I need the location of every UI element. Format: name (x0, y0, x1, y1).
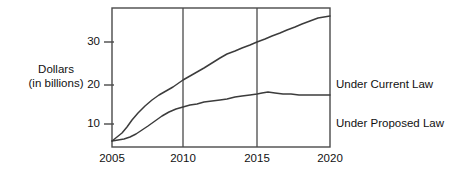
xtick-label-2010: 2010 (160, 152, 206, 164)
series-line-under-current-law (112, 16, 330, 141)
ytick-label-30: 30 (74, 35, 100, 47)
line-chart-plot (0, 0, 462, 184)
ytick-label-20: 20 (74, 78, 100, 90)
xtick-label-2005: 2005 (89, 152, 135, 164)
xtick-label-2015: 2015 (234, 152, 280, 164)
xtick-label-2020: 2020 (307, 152, 353, 164)
plot-frame (112, 8, 330, 147)
chart-figure: Dollars (in billions) 30 20 10 2005 2010… (0, 0, 462, 184)
series-label-under-current-law: Under Current Law (336, 78, 433, 90)
y-axis-title-line1: Dollars (14, 62, 98, 76)
ytick-label-10: 10 (74, 117, 100, 129)
series-line-under-proposed-law (112, 92, 330, 141)
series-label-under-proposed-law: Under Proposed Law (336, 117, 444, 129)
